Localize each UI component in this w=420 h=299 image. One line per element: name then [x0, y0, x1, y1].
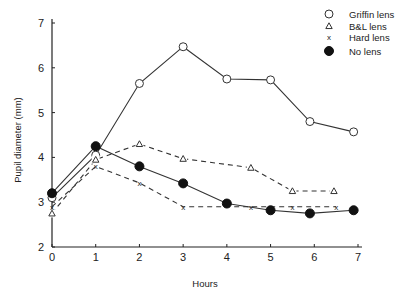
data-point-griffin-lens [135, 79, 143, 87]
data-point-no-lens [222, 199, 231, 208]
y-tick-label: 4 [38, 151, 44, 163]
data-point-hard-lens: x [50, 203, 54, 212]
x-tick-label: 0 [49, 251, 55, 263]
data-point-no-lens [179, 179, 188, 188]
legend-label-bl-lens: B&L lens [349, 21, 387, 32]
data-point-griffin-lens [223, 75, 231, 83]
y-axis-title: Pupil diameter (mm) [12, 97, 23, 183]
x-tick-label: 4 [224, 251, 230, 263]
legend-label-hard-lens: Hard lens [349, 32, 390, 43]
data-point-no-lens [135, 162, 144, 171]
data-point-hard-lens: x [334, 203, 338, 212]
pupil-diameter-chart: 01234567234567 xxxxxxx Griffin lensB&L l… [0, 0, 420, 299]
data-point-griffin-lens [267, 76, 275, 84]
data-point-griffin-lens [306, 118, 314, 126]
series-line-hard-lens [52, 166, 336, 206]
axes: 01234567234567 [38, 17, 362, 263]
data-point-no-lens [349, 206, 358, 215]
series-griffin-lens [48, 43, 358, 202]
legend-marker-hard-lens: x [327, 33, 331, 42]
legend: Griffin lensB&L lensxHard lensNo lens [325, 9, 395, 57]
x-tick-label: 3 [180, 251, 186, 263]
series-layer: xxxxxxx [48, 43, 359, 218]
data-point-hard-lens: x [181, 203, 185, 212]
data-point-no-lens [305, 209, 314, 218]
legend-label-no-lens: No lens [349, 46, 381, 57]
data-point-griffin-lens [179, 43, 187, 51]
data-point-hard-lens: x [290, 203, 294, 212]
data-point-no-lens [91, 142, 100, 151]
y-tick-label: 7 [38, 17, 44, 29]
y-tick-label: 3 [38, 196, 44, 208]
data-point-griffin-lens [350, 128, 358, 136]
data-point-hard-lens: x [94, 162, 98, 171]
legend-label-griffin-lens: Griffin lens [349, 9, 394, 20]
x-tick-label: 1 [93, 251, 99, 263]
y-tick-label: 5 [38, 107, 44, 119]
x-tick-label: 2 [136, 251, 142, 263]
data-point-no-lens [48, 189, 57, 198]
x-tick-label: 6 [311, 251, 317, 263]
legend-marker-griffin-lens [325, 10, 333, 18]
series-bl-lens [48, 140, 338, 217]
y-tick-label: 6 [38, 62, 44, 74]
data-point-no-lens [266, 206, 275, 215]
x-tick-label: 7 [355, 251, 361, 263]
x-axis-title: Hours [192, 278, 218, 289]
y-tick-label: 2 [38, 241, 44, 253]
data-point-hard-lens: x [137, 179, 141, 188]
x-tick-label: 5 [268, 251, 274, 263]
legend-marker-no-lens [325, 47, 334, 56]
